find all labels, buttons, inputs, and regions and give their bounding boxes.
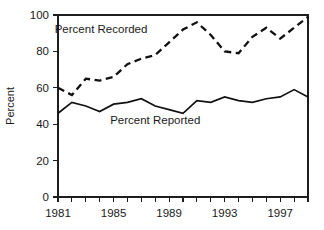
y-tick-label: 0	[43, 191, 49, 203]
y-tick-label: 80	[36, 45, 49, 57]
x-tick-label: 1981	[45, 207, 71, 219]
y-tick-label: 40	[36, 118, 49, 130]
y-tick-label: 100	[30, 9, 49, 21]
y-axis-title: Percent	[4, 87, 16, 125]
x-tick-label: 1989	[156, 207, 182, 219]
y-tick-label: 60	[36, 82, 49, 94]
chart-svg: 020406080100 19811985198919931997 Percen…	[0, 0, 324, 230]
x-tick-label: 1993	[212, 207, 238, 219]
x-tick-label: 1997	[267, 207, 293, 219]
y-axis-ticks: 020406080100	[30, 9, 58, 203]
series-annotation-label: Percent Reported	[110, 114, 200, 126]
chart-figure: 020406080100 19811985198919931997 Percen…	[0, 0, 324, 230]
y-tick-label: 20	[36, 155, 49, 167]
plot-background	[58, 15, 308, 197]
x-axis-ticks: 19811985198919931997	[45, 197, 308, 219]
series-annotation-label: Percent Recorded	[55, 23, 148, 35]
x-tick-label: 1985	[101, 207, 127, 219]
